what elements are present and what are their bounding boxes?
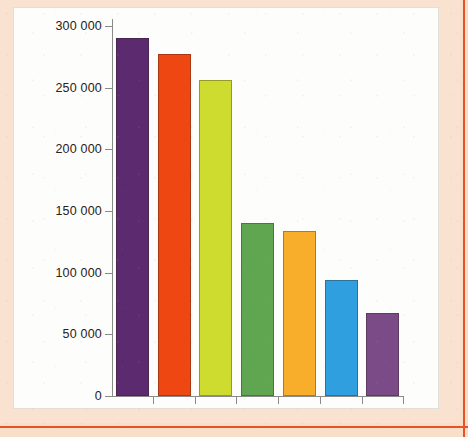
y-axis-tick-label-text: 200 000	[18, 142, 102, 156]
x-axis-tick	[403, 397, 404, 404]
y-axis-line	[112, 19, 113, 397]
y-axis-tick-label-text: 300 000	[18, 19, 102, 33]
x-axis-tick	[195, 397, 196, 404]
page-border-bottom-rule	[0, 426, 468, 428]
x-axis-tick	[362, 397, 363, 404]
y-axis-tick-label: 0	[14, 389, 102, 403]
y-axis-tick-label: 100 000	[14, 266, 102, 280]
y-axis-tick	[105, 211, 113, 212]
y-axis-tick-label: 250 000	[14, 81, 102, 95]
chart-screenshot: 050 000100 000150 000200 000250 000300 0…	[0, 0, 468, 437]
bar-1	[116, 38, 149, 396]
y-axis-tick	[105, 334, 113, 335]
x-axis-tick	[236, 397, 237, 404]
plot-area: 050 000100 000150 000200 000250 000300 0…	[14, 8, 438, 408]
bar-5	[283, 231, 316, 396]
y-axis-tick	[105, 396, 113, 397]
page-border-right-rule	[463, 0, 465, 437]
y-axis-tick-label: 300 000	[14, 19, 102, 33]
bar-7	[366, 313, 399, 396]
y-axis-tick-label: 50 000	[14, 327, 102, 341]
y-axis-tick	[105, 149, 113, 150]
bar-4	[241, 223, 274, 396]
y-axis-tick-label: 200 000	[14, 142, 102, 156]
bar-6	[325, 280, 358, 396]
y-axis-tick-label-text: 50 000	[18, 327, 102, 341]
y-axis-tick	[105, 273, 113, 274]
x-axis-tick	[320, 397, 321, 404]
y-axis-tick-label-text: 0	[18, 389, 102, 403]
y-axis-tick-label-text: 100 000	[18, 266, 102, 280]
chart-panel: 050 000100 000150 000200 000250 000300 0…	[14, 8, 438, 408]
x-axis-line	[112, 396, 404, 397]
x-axis-tick	[278, 397, 279, 404]
y-axis-tick	[105, 26, 113, 27]
x-axis-tick	[153, 397, 154, 404]
bar-2	[158, 54, 191, 396]
y-axis-tick-label-text: 150 000	[18, 204, 102, 218]
y-axis-tick	[105, 88, 113, 89]
y-axis-tick-label: 150 000	[14, 204, 102, 218]
bar-3	[199, 80, 232, 396]
y-axis-tick-label-text: 250 000	[18, 81, 102, 95]
